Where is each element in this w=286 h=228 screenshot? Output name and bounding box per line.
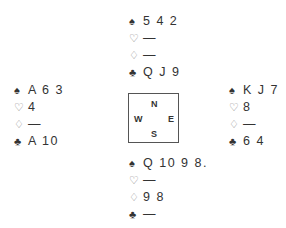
north-diamonds-row: ♢ — <box>129 47 180 64</box>
west-diamonds-row: ♢ — <box>14 116 64 133</box>
club-icon: ♣ <box>229 133 243 150</box>
north-clubs-cards: Q J 9 <box>143 64 180 81</box>
north-hearts-cards: — <box>143 30 157 47</box>
spade-icon: ♠ <box>129 155 143 172</box>
heart-icon: ♡ <box>14 99 28 116</box>
east-clubs-cards: 6 4 <box>243 133 265 150</box>
spade-icon: ♠ <box>14 82 28 99</box>
compass-west-label: W <box>134 114 143 124</box>
west-diamonds-cards: — <box>28 116 42 133</box>
heart-icon: ♡ <box>129 30 143 47</box>
north-hand: ♠ 5 4 2 ♡ — ♢ — ♣ Q J 9 <box>129 13 180 81</box>
north-hearts-row: ♡ — <box>129 30 180 47</box>
south-clubs-cards: — <box>143 206 157 223</box>
west-clubs-cards: A 10 <box>28 133 59 150</box>
south-spades-row: ♠ Q 10 9 8. <box>129 155 208 172</box>
south-clubs-row: ♣ — <box>129 206 208 223</box>
spade-icon: ♠ <box>229 82 243 99</box>
south-spades-cards: Q 10 9 8. <box>143 155 208 172</box>
diamond-icon: ♢ <box>129 189 143 206</box>
heart-icon: ♡ <box>229 99 243 116</box>
east-hearts-row: ♡ 8 <box>229 99 279 116</box>
south-hearts-row: ♡ — <box>129 172 208 189</box>
compass-box: N W E S <box>128 93 179 143</box>
east-hand: ♠ K J 7 ♡ 8 ♢ — ♣ 6 4 <box>229 82 279 150</box>
diamond-icon: ♢ <box>229 116 243 133</box>
south-hearts-cards: — <box>143 172 157 189</box>
compass-south-label: S <box>151 129 157 139</box>
east-hearts-cards: 8 <box>243 99 251 116</box>
west-spades-row: ♠ A 6 3 <box>14 82 64 99</box>
club-icon: ♣ <box>14 133 28 150</box>
diamond-icon: ♢ <box>129 47 143 64</box>
west-hand: ♠ A 6 3 ♡ 4 ♢ — ♣ A 10 <box>14 82 64 150</box>
west-spades-cards: A 6 3 <box>28 82 64 99</box>
east-spades-cards: K J 7 <box>243 82 279 99</box>
north-spades-cards: 5 4 2 <box>143 13 178 30</box>
spade-icon: ♠ <box>129 13 143 30</box>
club-icon: ♣ <box>129 206 143 223</box>
west-clubs-row: ♣ A 10 <box>14 133 64 150</box>
north-spades-row: ♠ 5 4 2 <box>129 13 180 30</box>
south-diamonds-cards: 9 8 <box>143 189 165 206</box>
north-clubs-row: ♣ Q J 9 <box>129 64 180 81</box>
east-diamonds-cards: — <box>243 116 257 133</box>
heart-icon: ♡ <box>129 172 143 189</box>
club-icon: ♣ <box>129 64 143 81</box>
south-hand: ♠ Q 10 9 8. ♡ — ♢ 9 8 ♣ — <box>129 155 208 223</box>
compass-north-label: N <box>151 99 158 109</box>
diamond-icon: ♢ <box>14 116 28 133</box>
east-spades-row: ♠ K J 7 <box>229 82 279 99</box>
west-hearts-cards: 4 <box>28 99 36 116</box>
east-clubs-row: ♣ 6 4 <box>229 133 279 150</box>
south-diamonds-row: ♢ 9 8 <box>129 189 208 206</box>
east-diamonds-row: ♢ — <box>229 116 279 133</box>
north-diamonds-cards: — <box>143 47 157 64</box>
west-hearts-row: ♡ 4 <box>14 99 64 116</box>
compass-east-label: E <box>168 114 174 124</box>
